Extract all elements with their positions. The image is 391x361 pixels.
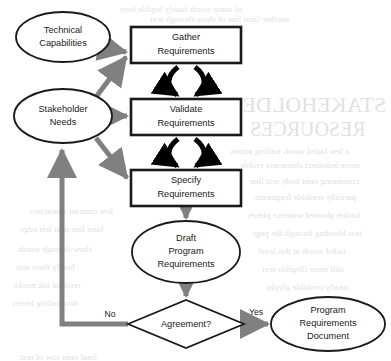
gather-requirements-line-1: Gather [172,32,200,42]
node-draft-program-requirements[interactable]: Draft Program Requirements [132,221,240,283]
technical-capabilities-line-1: Technical [44,25,82,35]
cycle-validate-specify [169,139,204,166]
validate-requirements-line-1: Validate [170,104,203,114]
program-requirements-document-line-3: Document [307,331,349,341]
node-agreement-decision[interactable]: Agreement? [128,300,244,348]
node-validate-requirements[interactable]: Validate Requirements [131,99,241,135]
diagram-canvas: STAKEHOLDERRESOURCESof some words barely… [0,0,391,361]
node-gather-requirements[interactable]: Gather Requirements [131,27,241,63]
edge-stakeholder-to-specify [96,138,127,178]
edge-agreement-no-feedback [62,150,128,324]
draft-program-requirements-line-3: Requirements [157,259,215,269]
validate-requirements-line-2: Requirements [157,118,215,128]
specify-requirements-line-2: Requirements [157,189,215,199]
edge-label-yes: Yes [249,307,263,317]
program-requirements-document-line-1: Program [310,305,346,315]
edge-stakeholder-to-gather [96,57,126,97]
program-requirements-document-line-2: Requirements [299,318,357,328]
node-program-requirements-document[interactable]: Program Requirements Document [271,297,385,351]
technical-capabilities-line-2: Capabilities [39,38,87,48]
stakeholder-needs-line-1: Stakeholder [38,104,87,114]
cycle-gather-validate [169,67,204,95]
node-stakeholder-needs[interactable]: Stakeholder Needs [14,89,112,143]
flowchart-svg: Technical Capabilities Stakeholder Needs… [0,0,391,361]
agreement-decision-label: Agreement? [161,319,211,329]
node-technical-capabilities[interactable]: Technical Capabilities [16,12,110,62]
gather-requirements-line-2: Requirements [157,46,215,56]
draft-program-requirements-line-2: Program [168,246,204,256]
draft-program-requirements-line-1: Draft [176,233,196,243]
edge-label-no: No [105,309,116,319]
node-specify-requirements[interactable]: Specify Requirements [131,170,241,206]
specify-requirements-line-1: Specify [171,175,202,185]
stakeholder-needs-line-2: Needs [50,117,77,127]
